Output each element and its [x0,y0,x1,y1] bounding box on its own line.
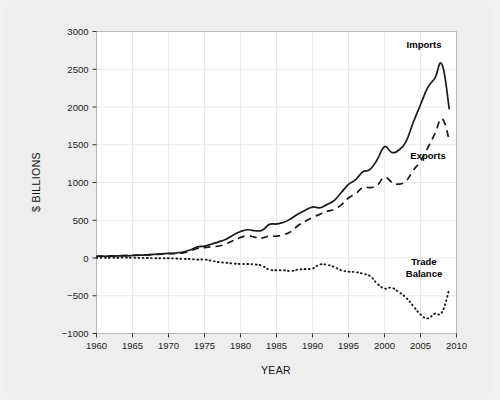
x-tick-label: 1995 [338,340,359,351]
x-axis-title: YEAR [261,364,291,376]
trade-balance-annotation-line2: Balance [406,268,442,279]
x-axis-tick-labels: 1960196519701975198019851990199520002005… [86,340,467,351]
trade-balance-annotation-line1: Trade [411,256,436,267]
x-tick-label: 1980 [230,340,251,351]
chart-figure: −1000−500050010001500200025003000 196019… [0,0,500,400]
x-tick-label: 2005 [410,340,431,351]
y-tick-label: 0 [83,253,88,264]
y-tick-label: 2500 [67,64,88,75]
gridlines [97,32,457,334]
x-tick-label: 1990 [302,340,323,351]
y-tick-label: 1500 [67,139,88,150]
x-tick-label: 1985 [266,340,287,351]
exports-annotation: Exports [410,150,445,161]
y-tick-label: 2000 [67,102,88,113]
x-tick-label: 1970 [158,340,179,351]
y-axis-title: $ BILLIONS [30,152,42,212]
x-tick-label: 2010 [446,340,467,351]
x-tick-label: 2000 [374,340,395,351]
y-tick-label: −500 [67,290,88,301]
x-tick-label: 1960 [86,340,107,351]
y-tick-label: −1000 [62,328,89,339]
y-tick-label: 3000 [67,26,88,37]
trade-line-chart: −1000−500050010001500200025003000 196019… [0,0,500,400]
imports-annotation: Imports [407,39,442,50]
y-tick-label: 500 [73,215,89,226]
y-tick-label: 1000 [67,177,88,188]
x-tick-label: 1975 [194,340,215,351]
y-axis-tick-labels: −1000−500050010001500200025003000 [62,26,89,339]
x-tick-label: 1965 [122,340,143,351]
